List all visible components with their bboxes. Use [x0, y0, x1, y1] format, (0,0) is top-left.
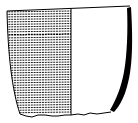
surface-hatching [0, 11, 72, 113]
sherd-svg [0, 0, 138, 123]
rim-line [7, 6, 130, 11]
sherd-drawing [0, 0, 138, 123]
wall-section [110, 7, 132, 112]
